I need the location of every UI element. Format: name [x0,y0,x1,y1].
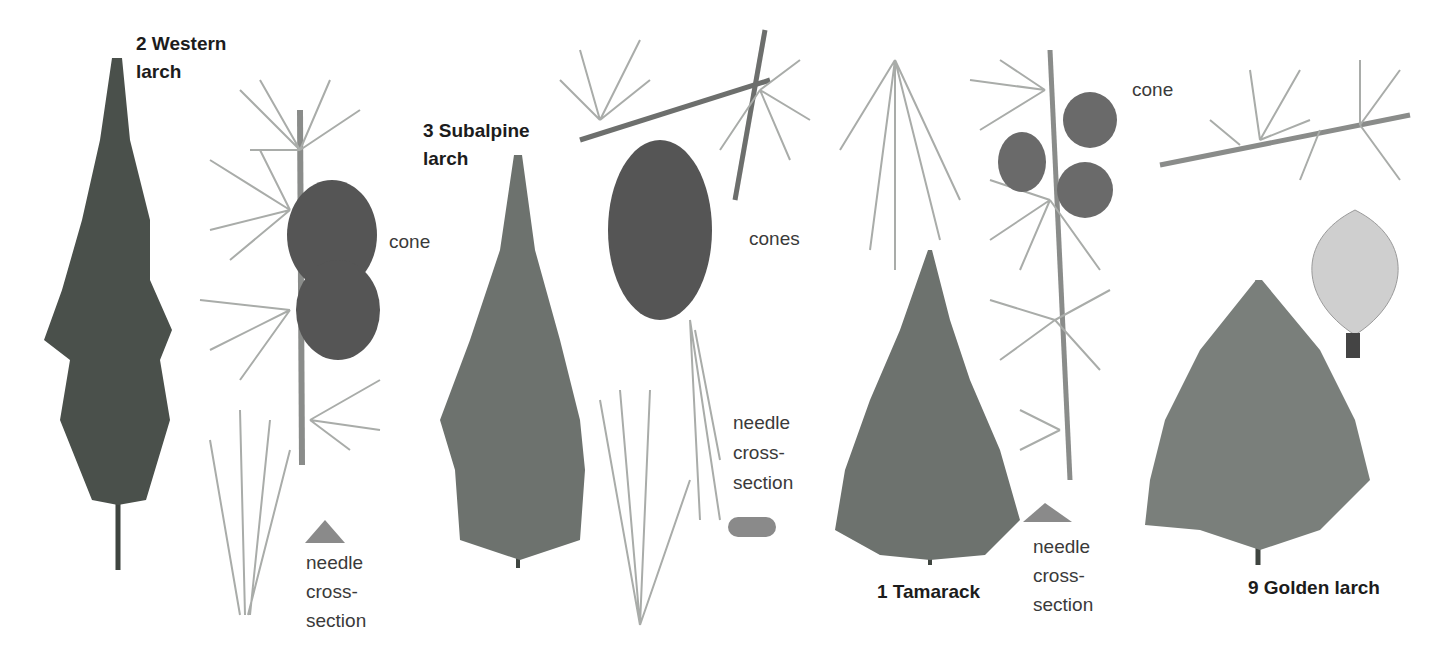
tamarack-needles [840,60,960,270]
western-larch-tree [44,58,172,570]
annotation-western-cone: cone [389,230,430,254]
label-golden-larch: 9 Golden larch [1248,574,1380,602]
tamarack-cross-section [1023,503,1072,522]
golden-larch-cone [1312,210,1398,335]
subalpine-larch-branch [560,30,810,625]
subalpine-cross-section [728,517,776,537]
annotation-subalpine-cones: cones [749,227,800,251]
label-subalpine-larch: 3 Subalpine larch [423,117,530,173]
label-western-larch: 2 Western larch [136,30,226,86]
subalpine-larch-tree [440,155,585,568]
annotation-subalpine-cross-section: needle cross- section [733,408,793,498]
illustration-canvas [0,0,1443,658]
golden-larch-tree [1145,280,1370,565]
annotation-western-cross-section: needle cross- section [306,548,366,635]
western-cross-section [305,520,345,543]
label-tamarack: 1 Tamarack [877,578,980,606]
annotation-tamarack-cross-section: needle cross- section [1033,532,1093,619]
annotation-tamarack-cone: cone [1132,78,1173,102]
golden-larch-branch [1160,60,1410,180]
tamarack-tree [835,250,1020,565]
subalpine-larch-cone [608,140,712,320]
